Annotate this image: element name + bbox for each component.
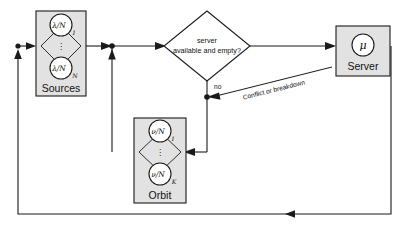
orbit-circle-top-subscript: 1 — [171, 135, 175, 142]
node-sources[interactable]: λ/N 1 λ/N N ⋮ Sources — [36, 11, 86, 96]
orbit-circle-top-rate: ν/N — [151, 126, 165, 135]
orbit-circle-bottom-rate: ν/N — [151, 169, 165, 178]
arrowhead-into-server — [325, 42, 336, 50]
node-decision[interactable]: server available and empty? — [164, 11, 250, 81]
flow-diagram-svg: λ/N 1 λ/N N ⋮ Sources server available a… — [0, 0, 407, 231]
sources-circle-bottom-subscript: N — [71, 72, 78, 79]
flow-diagram-canvas: λ/N 1 λ/N N ⋮ Sources server available a… — [0, 0, 407, 231]
sources-circle-bottom-rate: λ/N — [51, 63, 66, 72]
orbit-vertical-ellipsis: ⋮ — [156, 148, 164, 157]
orbit-label: Orbit — [149, 189, 172, 201]
orbit-circle-bottom-subscript: K — [171, 178, 177, 185]
junction-dot-left-entry — [15, 43, 20, 48]
arrowhead-feedback-left — [285, 210, 295, 218]
sources-circle-top-rate: λ/N — [51, 20, 66, 29]
node-orbit[interactable]: ν/N 1 ν/N K ⋮ Orbit — [134, 118, 186, 203]
arrowhead-feedback-up — [14, 49, 22, 59]
node-server[interactable]: μ Server — [336, 26, 390, 76]
server-label: Server — [348, 60, 379, 72]
decision-text-line2: available and empty? — [173, 46, 241, 55]
arrowhead-orbit-return-up — [108, 49, 116, 60]
decision-text-line1: server — [197, 36, 218, 45]
sources-circle-top-subscript: 1 — [72, 29, 76, 36]
sources-vertical-ellipsis: ⋮ — [57, 42, 65, 51]
server-rate-symbol: μ — [359, 39, 366, 52]
edge-label-no: no — [214, 83, 222, 90]
arrowhead-into-sources — [26, 42, 36, 50]
sources-label: Sources — [42, 82, 81, 94]
